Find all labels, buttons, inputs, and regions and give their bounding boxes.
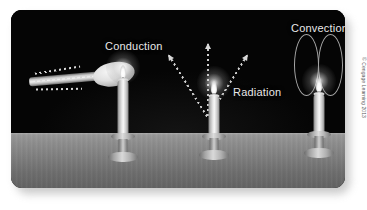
copyright-credit: © Cengage Learning 2013: [361, 57, 367, 118]
arrowhead-icon: [166, 53, 174, 61]
holder-base: [108, 152, 138, 162]
heat-flow-arrow-lower: [36, 88, 82, 91]
candle-body: [209, 96, 220, 135]
table-edge-highlight: [11, 133, 345, 135]
label-conduction: Conduction: [105, 40, 163, 52]
holder-stem: [119, 139, 128, 153]
arrowhead-icon: [242, 53, 250, 61]
illustration-panel: Conduction: [11, 10, 345, 188]
table-surface: [11, 133, 345, 188]
label-convection: Convection: [291, 22, 345, 34]
holder-base: [304, 148, 334, 158]
label-radiation: Radiation: [233, 86, 281, 98]
holder-base: [199, 150, 229, 160]
candle-body: [314, 94, 325, 133]
arrowhead-icon: [205, 43, 211, 49]
candle-body: [118, 80, 129, 135]
